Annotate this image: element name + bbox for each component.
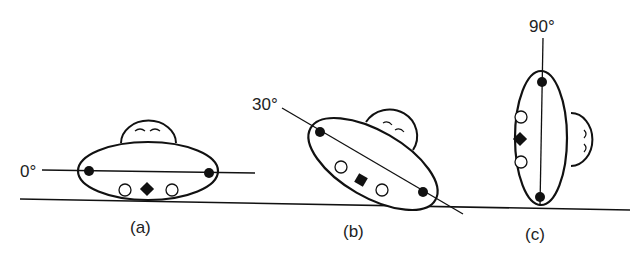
filled-marker	[204, 168, 214, 178]
filled-marker	[84, 166, 94, 176]
filled-marker	[537, 77, 547, 87]
diagram-canvas: 0° (a) 30° (b) 90° (c)	[0, 0, 642, 260]
caption-c: (c)	[525, 225, 545, 244]
caption-a: (a)	[130, 218, 151, 237]
caption-b: (b)	[343, 222, 364, 241]
open-marker	[119, 184, 131, 196]
angle-label-b: 30°	[252, 95, 278, 114]
angle-label-a: 0°	[20, 162, 36, 181]
filled-marker	[418, 187, 428, 197]
open-marker	[376, 184, 388, 196]
panel-c: 90° (c)	[513, 17, 592, 244]
dome-icon	[571, 113, 592, 166]
filled-marker	[535, 192, 545, 202]
panel-a: 0° (a)	[20, 121, 255, 237]
panel-b: 30° (b)	[252, 95, 463, 241]
open-marker	[166, 184, 178, 196]
filled-marker	[315, 127, 325, 137]
open-marker	[515, 156, 527, 168]
angle-label-c: 90°	[529, 17, 555, 36]
dome-icon	[121, 121, 176, 143]
open-marker	[335, 161, 347, 173]
open-marker	[515, 111, 527, 123]
